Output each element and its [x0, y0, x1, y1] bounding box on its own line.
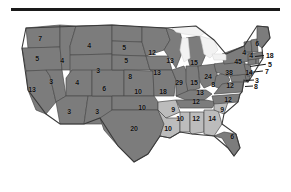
state-label-CT: 7	[265, 68, 269, 75]
state-label-MA: 18	[266, 52, 273, 59]
state-label-VT: 4	[249, 52, 253, 59]
state-label-SC: 9	[220, 106, 224, 113]
state-label-AZ: 3	[67, 108, 71, 115]
state-CO	[92, 70, 124, 96]
state-label-OH: 24	[204, 73, 211, 80]
state-label-KS: 10	[134, 88, 141, 95]
figure-root: .d{fill:#7c7c7c;stroke:#4a4a4a;stroke-wi…	[0, 0, 291, 192]
state-label-MD: 8	[254, 83, 258, 90]
state-label-FL: 6	[230, 133, 234, 140]
state-label-KY: 13	[196, 89, 203, 96]
state-label-MS: 10	[176, 115, 183, 122]
state-label-OK: 10	[138, 104, 145, 111]
state-label-MN: 12	[148, 49, 155, 56]
state-label-NC: 12	[224, 96, 231, 103]
state-label-MO: 18	[159, 88, 166, 95]
lake-michigan	[180, 38, 190, 62]
state-label-IN: 15	[190, 79, 197, 86]
state-label-NJ: 14	[245, 69, 252, 76]
state-label-MI: 15	[190, 59, 197, 66]
state-MT	[70, 25, 112, 55]
state-label-TN: 12	[192, 98, 199, 105]
state-label-VA: 12	[226, 82, 233, 89]
state-label-ID: 4	[60, 57, 64, 64]
state-label-CA: 13	[28, 86, 35, 93]
state-ND	[112, 25, 142, 42]
state-label-SD: 5	[124, 57, 128, 64]
state-label-IA: 13	[153, 69, 160, 76]
state-TX	[100, 110, 164, 162]
state-label-ME: 6	[255, 40, 259, 47]
state-label-UT: 4	[75, 79, 79, 86]
state-OR	[22, 47, 62, 71]
state-label-AL: 12	[192, 115, 199, 122]
state-label-CO: 6	[102, 85, 106, 92]
state-SD	[112, 41, 146, 56]
state-label-NV: 3	[49, 78, 53, 85]
state-label-NH: 4	[242, 49, 246, 56]
state-label-PA: 38	[225, 69, 232, 76]
top-divider-rule	[11, 8, 280, 11]
state-OK	[112, 96, 158, 110]
state-label-TX: 20	[130, 125, 137, 132]
state-label-WY: 3	[96, 67, 100, 74]
state-label-NM: 3	[95, 108, 99, 115]
state-label-WA: 7	[38, 35, 42, 42]
lake-ontario	[212, 54, 226, 60]
state-label-NY: 45	[234, 58, 241, 65]
state-label-ND: 5	[122, 44, 126, 51]
us-electoral-map: .d{fill:#7c7c7c;stroke:#4a4a4a;stroke-wi…	[0, 14, 291, 192]
state-label-LA: 10	[164, 125, 171, 132]
state-label-AR: 9	[171, 106, 175, 113]
state-AZ	[56, 96, 88, 124]
state-label-MT: 4	[87, 42, 91, 49]
state-label-WI: 13	[166, 57, 173, 64]
state-label-GA: 14	[208, 115, 215, 122]
state-label-NE: 8	[128, 73, 132, 80]
state-WA	[26, 25, 60, 48]
state-label-RI: 5	[268, 61, 272, 68]
state-label-IL: 29	[175, 79, 182, 86]
state-label-WV: 8	[211, 81, 215, 88]
state-NE	[112, 55, 150, 70]
state-label-OR: 5	[35, 55, 39, 62]
